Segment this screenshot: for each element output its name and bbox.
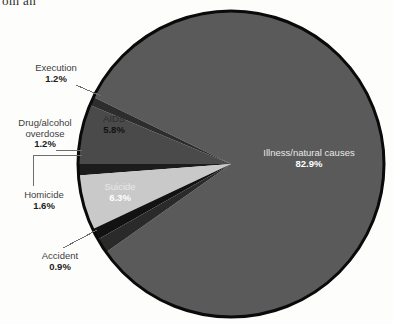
slice-label-illness-percent: 82.9% [243, 159, 375, 170]
callout-execution-percent: 1.2% [17, 74, 95, 85]
slice-label-illness-natural-causes: Illness/natural causes 82.9% [243, 148, 375, 170]
slice-label-suicide: Suicide 6.3% [90, 182, 150, 204]
slice-label-aids-percent: 5.8% [88, 125, 140, 136]
callout-execution: Execution 1.2% [17, 63, 95, 84]
leader-line-accident [63, 230, 97, 248]
slice-label-aids: AIDS 5.8% [88, 114, 140, 136]
slice-label-suicide-percent: 6.3% [90, 193, 150, 204]
callout-drug-alcohol-overdose: Drug/alcohol overdose 1.2% [2, 118, 88, 150]
leader-line-homicide [33, 155, 82, 186]
callout-homicide: Homicide 1.6% [6, 190, 82, 211]
callout-drug-overdose-percent: 1.2% [2, 139, 88, 150]
callout-accident: Accident 0.9% [24, 251, 96, 272]
callout-accident-percent: 0.9% [24, 262, 96, 273]
pie-chart-figure: om an [0, 0, 393, 324]
callout-homicide-percent: 1.6% [6, 201, 82, 212]
